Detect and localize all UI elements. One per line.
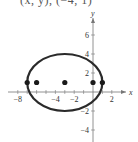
y-axis-arrow-icon	[91, 18, 95, 23]
axes: xy−8−4−22642−2−4	[8, 9, 133, 142]
x-tick-label: −2	[70, 95, 79, 104]
point-vertex	[25, 80, 30, 85]
data-points	[25, 80, 105, 85]
x-axis-arrow-icon	[121, 90, 126, 94]
x-axis-label: x	[128, 88, 133, 97]
x-tick-label: −8	[14, 95, 23, 104]
point-focus	[34, 80, 39, 85]
x-tick-label: 2	[110, 95, 114, 104]
y-axis-label: y	[90, 9, 95, 18]
point-center	[62, 80, 67, 85]
y-tick-label: −4	[80, 126, 89, 135]
ellipse-plot: xy−8−4−22642−2−4	[0, 0, 138, 142]
y-tick-label: 2	[85, 69, 89, 78]
point-vertex	[100, 80, 105, 85]
y-tick-label: 6	[85, 31, 89, 40]
point-focus	[90, 80, 95, 85]
x-tick-label: −4	[51, 95, 60, 104]
